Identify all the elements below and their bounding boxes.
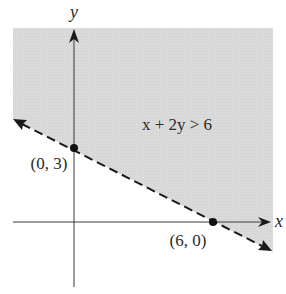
point-0-3 xyxy=(70,144,78,152)
inequality-graph: y x x + 2y > 6 (0, 3) (6, 0) xyxy=(0,0,286,294)
point-6-0-label: (6, 0) xyxy=(170,231,207,250)
y-axis-label: y xyxy=(68,2,78,22)
x-axis-label: x xyxy=(274,211,283,231)
point-6-0 xyxy=(209,218,217,226)
point-0-3-label: (0, 3) xyxy=(31,154,68,173)
inequality-label: x + 2y > 6 xyxy=(142,115,212,134)
